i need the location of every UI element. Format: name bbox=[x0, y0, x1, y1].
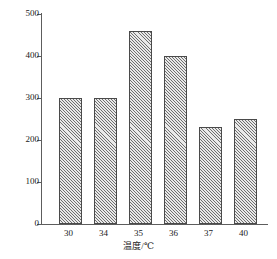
y-tick-label: 0 bbox=[35, 218, 40, 229]
x-axis-line bbox=[41, 224, 268, 225]
bar-3 bbox=[164, 56, 187, 224]
y-tick-label: 200 bbox=[26, 134, 40, 145]
plot-area: 0 100 200 300 400 500 bbox=[42, 14, 268, 224]
bar-chart-figure: 0 100 200 300 400 500 30 34 35 bbox=[0, 0, 277, 259]
y-tick-label: 100 bbox=[26, 176, 40, 187]
y-tick-label: 500 bbox=[26, 8, 40, 19]
y-tick-label: 400 bbox=[26, 50, 40, 61]
y-tick-label: 300 bbox=[26, 92, 40, 103]
bar-5 bbox=[234, 119, 257, 224]
x-tick-label-5: 40 bbox=[224, 228, 263, 239]
x-tick-label-2: 35 bbox=[119, 228, 158, 239]
bar-1 bbox=[94, 98, 117, 224]
bar-4 bbox=[199, 127, 222, 224]
x-tick-label-3: 36 bbox=[154, 228, 193, 239]
x-tick-label-0: 30 bbox=[49, 228, 88, 239]
bar-2 bbox=[129, 31, 152, 224]
bar-0 bbox=[59, 98, 82, 224]
x-tick-label-4: 37 bbox=[189, 228, 228, 239]
x-axis-title: 温度/℃ bbox=[0, 241, 277, 252]
x-tick-label-1: 34 bbox=[84, 228, 123, 239]
